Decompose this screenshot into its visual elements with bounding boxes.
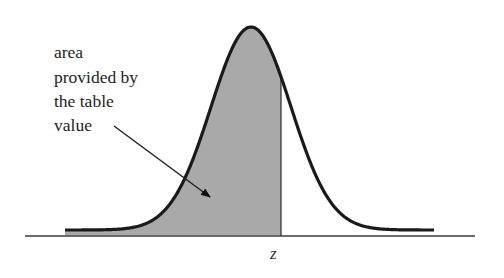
annotation-line-2: provided by [54,67,138,87]
annotation-line-4: value [54,115,92,135]
area-annotation: area provided by the table value [54,42,142,135]
normal-distribution-diagram: area provided by the table value z [0,0,504,278]
z-axis-label: z [269,244,277,263]
annotation-line-3: the table [54,91,114,111]
annotation-line-1: area [54,42,83,62]
shaded-area-under-curve [65,27,281,235]
